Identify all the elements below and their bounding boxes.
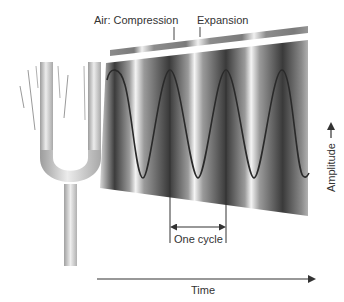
time-label: Time	[191, 284, 215, 296]
sound-wave-diagram: Air: Compression Expansion One cycle Amp…	[0, 0, 344, 302]
air-pressure-field	[100, 40, 308, 216]
amplitude-label: Amplitude	[325, 143, 337, 192]
tuning-fork	[20, 62, 101, 266]
one-cycle-label: One cycle	[174, 233, 223, 245]
expansion-label: Expansion	[197, 14, 248, 26]
air-compression-label: Air: Compression	[94, 14, 178, 26]
